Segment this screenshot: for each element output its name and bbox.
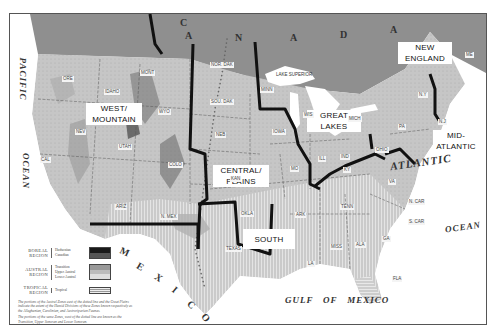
state-label-nev: NEV [75,129,86,135]
state-label-ny: N.Y [418,92,428,98]
region-line: WEST/ [101,103,127,114]
legend-region-name: AUSTRAL REGION [18,267,48,277]
boundary-greatlakes-midatlantic [370,134,372,149]
state-label-fla: FLA [392,276,402,282]
state-label-mont: MONT [140,70,155,76]
region-line: MOUNTAIN [92,114,136,125]
map-legend: BOREAL REGION Hudsonian Canadian AUSTRAL… [18,247,136,324]
canada-letter-a1: A [185,30,192,41]
state-label-mo: MO [290,166,299,172]
state-label-wyo: WYO [158,109,171,115]
state-label-ark: ARK [295,212,306,218]
state-label-ohio: OHIO [375,147,389,153]
legend-swatch-boreal [89,247,111,259]
legend-zone: Lower Austral [55,275,85,280]
state-label-colo: COLO [168,162,183,168]
lake-superior-label: LAKE SUPERIOR [275,72,313,78]
state-label-ore: ORE [62,76,74,82]
state-label-nmex: N. MEX [160,214,178,220]
legend-austral: AUSTRAL REGION Transition Upper Austral … [18,264,136,280]
state-label-pa: PA [398,124,406,130]
legend-zone-list: Tropical [51,288,85,293]
canada-letter-a3: A [390,24,397,35]
state-label-scar: S. CAR [408,219,425,225]
state-label-ala: ALA [355,242,366,248]
region-line: CENTRAL/ [220,165,261,176]
state-label-idaho: IDAHO [104,89,120,95]
region-label-west-mountain: WEST/ MOUNTAIN [86,103,142,125]
state-label-ky: KY [343,167,351,173]
state-label-miss: MISS [330,244,343,250]
state-label-me: ME [465,52,474,58]
state-label-minn: MINN [260,87,274,93]
state-label-ind: IND [340,154,350,160]
state-label-neb: NEB [215,132,226,138]
state-label-texas: TEXAS [225,246,242,252]
region-line: ATLANTIC [436,141,476,152]
state-label-okla: OKLA [240,211,254,217]
state-label-nordak: NOR. DAK [210,62,234,68]
state-label-ariz: ARIZ [115,204,127,210]
state-label-mich: MICH [348,116,362,122]
legend-note-1: The portions of the Austral Zones east o… [18,300,136,313]
state-label-ncar: N. CAR [408,199,425,205]
legend-zone: Canadian [55,253,85,258]
state-label-va: VA [388,179,396,185]
state-label-ga: GA [382,236,391,242]
pacific-label: PACIFIC [18,58,28,101]
region-line: GREAT [320,110,348,121]
legend-zone-list: Transition Upper Austral Lower Austral [51,265,85,280]
legend-swatch-austral [89,264,111,280]
canada-letter-d: D [340,29,347,40]
state-label-nj: N.J [438,119,447,125]
state-label-ill: ILL [318,156,326,162]
region-line: SOUTH [255,234,284,245]
map-frame: C A N A D A M E X I C O PACIFIC OCEAN AT… [9,13,487,325]
legend-boreal: BOREAL REGION Hudsonian Canadian [18,247,136,259]
region-label-new-england: NEW ENGLAND [398,42,452,64]
region-label-mid-atlantic: MID- ATLANTIC [433,130,479,152]
legend-swatch-tropical [89,287,111,294]
legend-region-name: BOREAL REGION [18,248,48,258]
canada-letter-c: C [180,17,187,28]
region-line: LAKES [321,121,348,132]
state-label-cal: CAL [40,157,51,163]
state-label-wis: WIS [303,112,314,118]
state-label-la: LA [307,261,315,267]
canada-letter-a2: A [290,32,297,43]
state-label-kan: KAN [230,176,241,182]
canada-letter-n: N [235,32,242,43]
region-line: NEW [415,42,434,53]
region-line: ENGLAND [405,53,445,64]
gulf-label: GULF OF MEXICO [285,295,389,305]
legend-zone: Tropical [55,288,85,293]
state-label-iowa: IOWA [272,129,286,135]
region-line: MID- [447,130,465,141]
legend-tropical: TROPICAL REGION Tropical [18,285,136,295]
state-label-soudak: SOU. DAK [210,99,234,105]
legend-note-2: The portions of the same Zones, west of … [18,315,136,324]
pacific-ocean-label: OCEAN [21,153,31,189]
legend-zone-list: Hudsonian Canadian [51,248,85,258]
region-label-south: SOUTH [243,229,295,249]
state-label-utah: UTAH [118,144,132,150]
legend-region-name: TROPICAL REGION [18,285,48,295]
state-label-tenn: TENN [340,204,354,210]
